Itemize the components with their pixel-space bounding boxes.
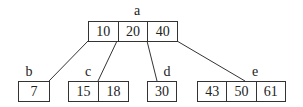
node-b: 7: [18, 81, 50, 102]
node-a: 10 20 40: [88, 21, 178, 42]
node-a-key-0: 10: [89, 22, 118, 41]
node-a-label: a: [134, 4, 140, 18]
node-c-label: c: [85, 65, 91, 79]
node-c-key-1: 18: [98, 82, 128, 101]
node-b-label: b: [26, 65, 33, 79]
node-e-key-0: 43: [198, 82, 226, 101]
node-b-key-0: 7: [19, 82, 49, 101]
node-c-key-0: 15: [69, 82, 98, 101]
node-d: 30: [147, 81, 177, 102]
node-a-key-1: 20: [118, 22, 148, 41]
edge-a-b: [49, 41, 88, 81]
node-e: 43 50 61: [197, 81, 286, 102]
node-e-key-1: 50: [226, 82, 255, 101]
edge-a-d: [147, 41, 157, 81]
node-e-key-2: 61: [256, 82, 285, 101]
edge-a-c: [98, 41, 117, 81]
edge-a-e: [177, 41, 245, 81]
node-d-label: d: [164, 65, 171, 79]
node-c: 15 18: [68, 81, 129, 102]
node-d-key-0: 30: [148, 82, 176, 101]
node-e-label: e: [252, 65, 258, 79]
node-a-key-2: 40: [147, 22, 177, 41]
